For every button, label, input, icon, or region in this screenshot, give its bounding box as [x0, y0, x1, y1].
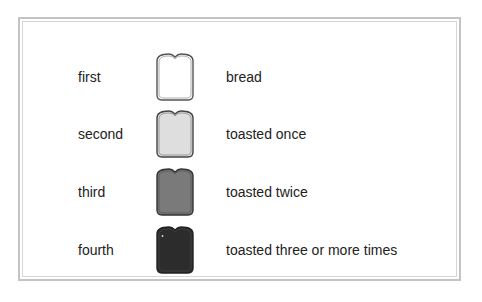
toast-state-label: toasted three or more times — [226, 224, 397, 276]
bread-slice-icon — [151, 52, 199, 102]
legend-row-fourth: fourth toasted three or more times — [0, 224, 482, 276]
toast-light-icon — [151, 109, 199, 159]
order-label: fourth — [78, 224, 114, 276]
toast-state-label: toasted twice — [226, 166, 308, 218]
legend-row-first: first bread — [0, 51, 482, 103]
legend-row-third: third toasted twice — [0, 166, 482, 218]
toast-state-label: toasted once — [226, 108, 306, 160]
order-label: third — [78, 166, 105, 218]
legend-row-second: second toasted once — [0, 108, 482, 160]
toast-medium-icon — [151, 167, 199, 217]
toast-state-label: bread — [226, 51, 262, 103]
order-label: second — [78, 108, 123, 160]
toast-dark-icon — [151, 225, 199, 275]
order-label: first — [78, 51, 101, 103]
